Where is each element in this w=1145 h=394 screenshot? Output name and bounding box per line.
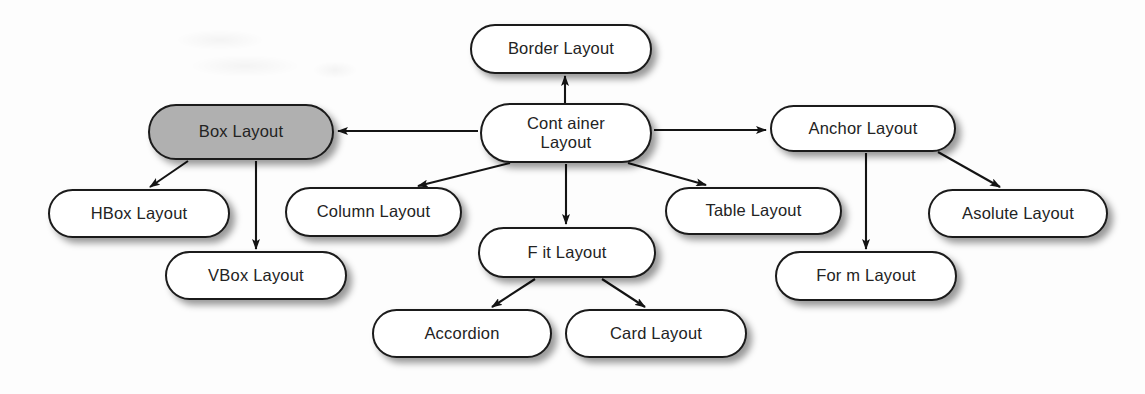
edge-fit-to-accordion bbox=[492, 279, 535, 307]
node-label-hbox-layout: HBox Layout bbox=[81, 204, 198, 223]
node-label-card-layout: Card Layout bbox=[600, 324, 712, 343]
node-label-anchor-layout: Anchor Layout bbox=[798, 119, 927, 138]
edge-container-to-column bbox=[418, 163, 510, 186]
edge-box-to-hbox bbox=[150, 161, 188, 187]
node-card-layout[interactable]: Card Layout bbox=[565, 309, 747, 358]
node-container-layout[interactable]: Cont ainer Layout bbox=[480, 103, 652, 163]
scan-bleed-artifact bbox=[150, 18, 380, 96]
node-label-column-layout: Column Layout bbox=[307, 202, 441, 221]
edge-fit-to-card bbox=[602, 279, 645, 307]
node-label-container-layout: Cont ainer Layout bbox=[517, 114, 615, 153]
node-hbox-layout[interactable]: HBox Layout bbox=[48, 189, 230, 238]
node-label-border-layout: Border Layout bbox=[498, 39, 624, 58]
layout-hierarchy-diagram: Border LayoutCont ainer LayoutBox Layout… bbox=[0, 0, 1145, 394]
node-vbox-layout[interactable]: VBox Layout bbox=[165, 251, 347, 300]
node-label-accordion: Accordion bbox=[414, 324, 509, 343]
node-label-asolute-layout: Asolute Layout bbox=[952, 204, 1084, 223]
edge-anchor-to-asolute bbox=[938, 152, 1000, 187]
node-box-layout[interactable]: Box Layout bbox=[148, 104, 334, 160]
node-fit-layout[interactable]: F it Layout bbox=[478, 227, 656, 278]
node-label-table-layout: Table Layout bbox=[696, 201, 812, 220]
node-label-box-layout: Box Layout bbox=[189, 122, 294, 141]
node-form-layout[interactable]: For m Layout bbox=[775, 251, 957, 301]
node-border-layout[interactable]: Border Layout bbox=[470, 24, 652, 74]
node-label-vbox-layout: VBox Layout bbox=[198, 266, 314, 285]
node-accordion[interactable]: Accordion bbox=[372, 309, 552, 358]
edge-container-to-table bbox=[628, 163, 706, 185]
node-label-fit-layout: F it Layout bbox=[517, 243, 616, 262]
node-column-layout[interactable]: Column Layout bbox=[285, 187, 462, 237]
node-label-form-layout: For m Layout bbox=[806, 266, 926, 285]
node-asolute-layout[interactable]: Asolute Layout bbox=[928, 189, 1108, 238]
node-anchor-layout[interactable]: Anchor Layout bbox=[770, 105, 956, 152]
node-table-layout[interactable]: Table Layout bbox=[665, 187, 842, 235]
